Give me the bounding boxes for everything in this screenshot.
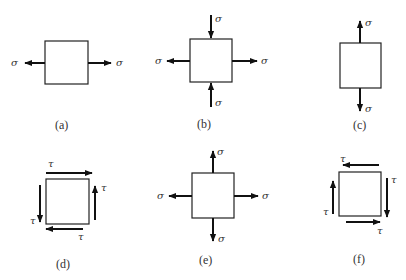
sigma-right: σ [261, 55, 269, 66]
panel-label: (f) [353, 252, 365, 266]
sigma-top: σ [217, 146, 225, 157]
tau-top: τ [48, 158, 54, 169]
sigma-right: σ [262, 190, 270, 201]
sigma-bottom: σ [215, 97, 223, 108]
element-square [45, 41, 88, 84]
panel-label: (c) [353, 118, 366, 132]
panel-label: (b) [197, 117, 211, 131]
element-square [339, 172, 381, 216]
sigma-top: σ [215, 13, 223, 24]
tau-left: τ [30, 215, 36, 226]
panel-label: (d) [56, 257, 70, 271]
panel-c: σ σ (c) [340, 17, 381, 132]
sigma-left: σ [155, 55, 163, 66]
tau-bottom: τ [78, 231, 84, 242]
element-square [46, 179, 89, 224]
sigma-right: σ [116, 57, 124, 68]
element-square [192, 173, 234, 218]
stress-states-figure: σ σ (a) σ σ σ σ (b) σ σ (c) τ τ τ τ (d) [0, 0, 406, 280]
panel-b: σ σ σ σ (b) [155, 13, 269, 131]
tau-left: τ [323, 206, 329, 217]
tau-right: τ [391, 174, 397, 185]
sigma-top: σ [365, 17, 373, 28]
panel-e: σ σ σ σ (e) [157, 146, 270, 267]
panel-label: (e) [199, 253, 212, 267]
element-square [190, 39, 232, 82]
panel-a: σ σ (a) [11, 41, 124, 132]
sigma-bottom: σ [365, 103, 373, 114]
sigma-left: σ [11, 57, 19, 68]
tau-bottom: τ [377, 225, 383, 236]
panel-label: (a) [55, 118, 68, 132]
element-square [340, 43, 381, 88]
sigma-left: σ [157, 190, 165, 201]
sigma-bottom: σ [218, 233, 226, 244]
tau-top: τ [340, 153, 346, 164]
panel-d: τ τ τ τ (d) [30, 158, 107, 271]
tau-right: τ [101, 182, 107, 193]
panel-f: τ τ τ τ (f) [323, 153, 397, 266]
